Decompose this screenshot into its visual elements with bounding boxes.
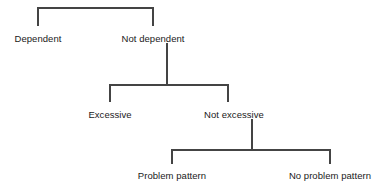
node-label-not-excessive: Not excessive [204,109,264,120]
node-label-no-problem-pattern: No problem pattern [289,170,371,181]
bracket-level-1 [38,8,153,26]
bracket-level-3 [172,150,330,164]
node-label-excessive: Excessive [88,109,131,120]
node-label-dependent: Dependent [15,33,62,44]
tree-connectors [0,0,384,187]
node-label-problem-pattern: Problem pattern [138,170,206,181]
decision-tree-diagram: Dependent Not dependent Excessive Not ex… [0,0,384,187]
bracket-level-2 [110,85,228,102]
node-label-not-dependent: Not dependent [122,33,185,44]
